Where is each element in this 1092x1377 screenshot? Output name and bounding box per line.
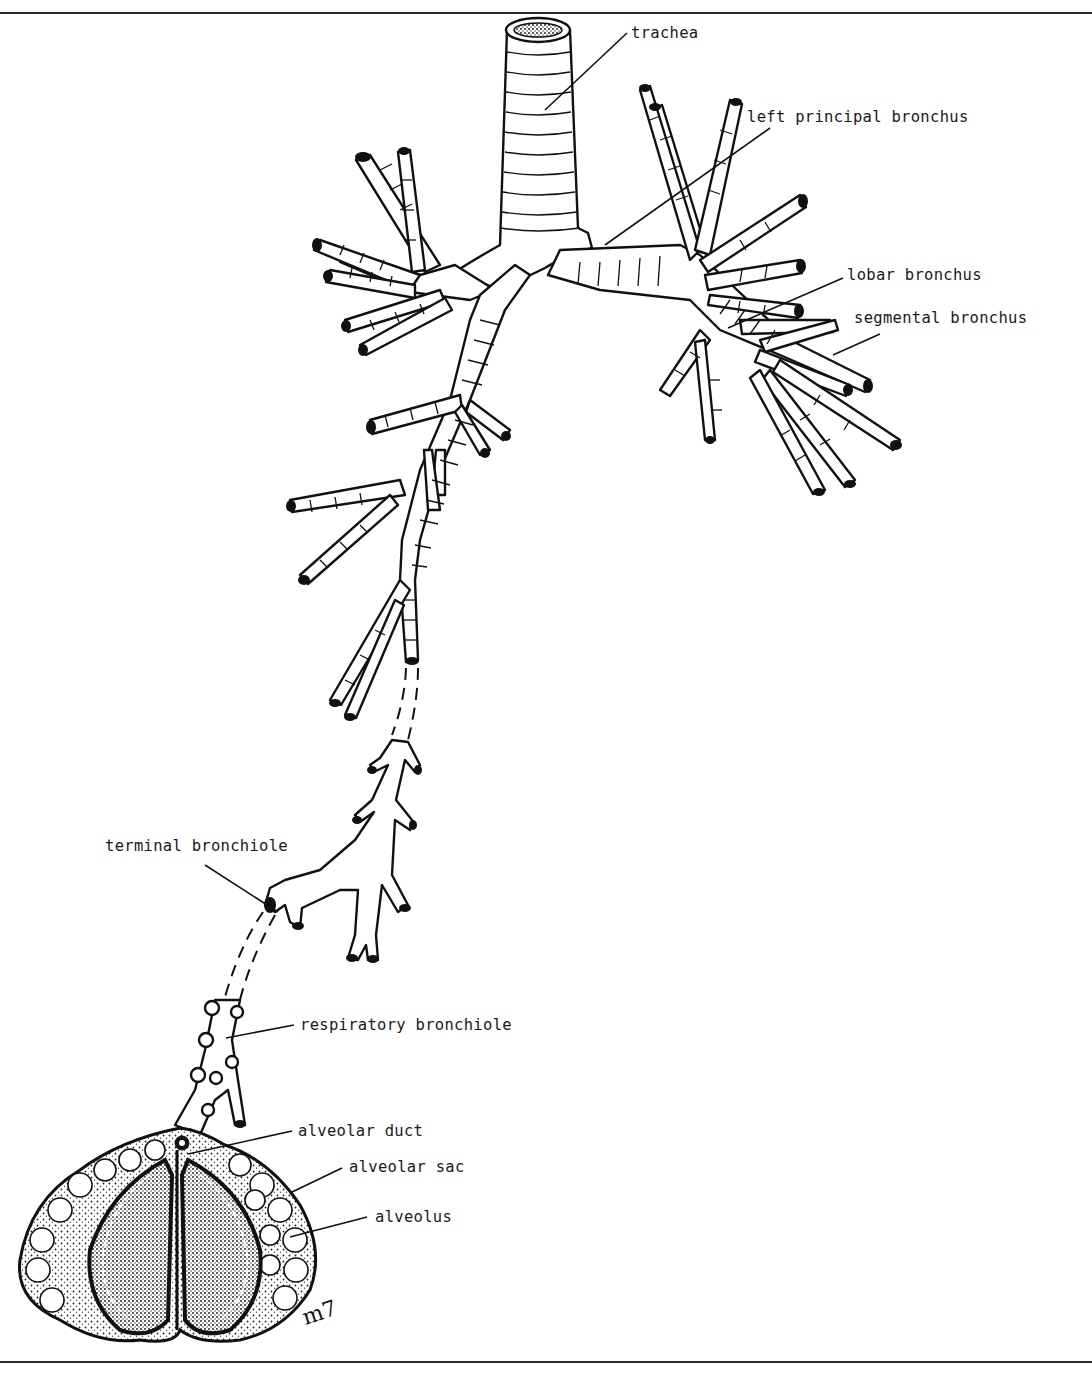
label-terminal-bronchiole: terminal bronchiole (105, 837, 288, 855)
dashed-continuation-upper-right (408, 668, 418, 740)
label-alveolar-duct: alveolar duct (298, 1122, 423, 1140)
label-segmental-bronchus: segmental bronchus (854, 309, 1027, 327)
respiratory-bronchiole-shape (175, 1000, 246, 1135)
dashed-continuation-lower-right (240, 915, 275, 1000)
leader-line-alveolar-sac (290, 1168, 342, 1193)
dashed-continuation-upper-left (392, 668, 406, 735)
label-respiratory-bronchiole: respiratory bronchiole (300, 1016, 512, 1034)
label-lobar-bronchus: lobar bronchus (847, 266, 982, 284)
label-left-principal-bronchus: left principal bronchus (747, 108, 969, 126)
label-alveolus: alveolus (375, 1208, 452, 1226)
leader-line-terminal-bronchiole (205, 865, 278, 912)
bronchial-tree-illustration (0, 0, 1092, 1377)
right-bronchial-branches (286, 147, 530, 721)
alveolar-sac-cluster (20, 1128, 316, 1341)
leader-line-respiratory-bronchiole (226, 1025, 294, 1038)
label-alveolar-sac: alveolar sac (349, 1158, 465, 1176)
label-trachea: trachea (631, 24, 698, 42)
left-bronchial-branches (548, 84, 902, 496)
leader-line-segmental-bronchus (833, 334, 880, 355)
